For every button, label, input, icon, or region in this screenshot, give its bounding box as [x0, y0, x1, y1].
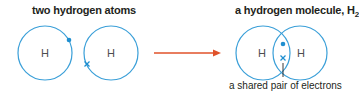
hydrogen-molecule: H H: [236, 26, 327, 80]
shared-electron-cross-icon: [281, 56, 286, 61]
molecule-atom-2-symbol: H: [297, 47, 305, 59]
atom-1-symbol: H: [41, 47, 49, 59]
hydrogen-atom-2: H: [84, 26, 138, 80]
atom-2-symbol: H: [107, 47, 115, 59]
molecule-atom-1-symbol: H: [258, 47, 266, 59]
reaction-arrow-icon: [154, 50, 221, 57]
hydrogen-atom-1: H: [18, 26, 72, 80]
shared-pair-caption: a shared pair of electrons: [229, 80, 342, 91]
electron-dot-icon: [67, 38, 72, 43]
shared-electron-dot-icon: [281, 42, 286, 47]
